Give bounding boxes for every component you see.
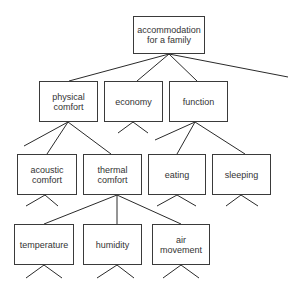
node-temperature: temperature	[14, 224, 74, 265]
edge-temperature-stub-right	[44, 265, 62, 278]
edge-sleeping-stub-left	[226, 195, 241, 206]
edge-air-stub-left	[163, 265, 181, 278]
edge-root-stub-left	[69, 54, 169, 81]
edge-thermal-temperature	[44, 195, 117, 224]
edge-physical-thermal	[68, 122, 111, 154]
edge-sleeping-stub-right	[241, 195, 258, 206]
node-thermal-comfort: thermal comfort	[83, 154, 142, 195]
node-economy: economy	[104, 81, 163, 122]
node-accommodation-for-a-family: accommodation for a family	[133, 16, 205, 54]
edge-acoustic-stub-right	[45, 195, 58, 206]
edge-economy-stub-left	[118, 122, 133, 133]
edge-air-stub-right	[181, 265, 199, 278]
node-eating: eating	[148, 154, 206, 195]
edge-physical-acoustic	[47, 122, 68, 154]
node-air-movement: air movement	[152, 224, 210, 265]
edge-root-function	[169, 54, 197, 81]
node-physical-comfort: physical comfort	[39, 81, 98, 122]
edge-physical-stub	[24, 122, 68, 146]
edge-thermal-air	[117, 195, 181, 224]
edge-function-sleeping	[195, 122, 245, 154]
edge-humidity-stub-right	[117, 265, 134, 278]
edge-function-stub	[155, 122, 195, 140]
edge-root-stub-right	[169, 54, 288, 77]
node-humidity: humidity	[83, 224, 142, 265]
edge-function-eating	[177, 122, 195, 154]
edge-temperature-stub-left	[26, 265, 44, 278]
node-sleeping: sleeping	[212, 154, 271, 195]
edge-acoustic-stub-left	[26, 195, 45, 206]
edge-humidity-stub-left	[97, 265, 117, 278]
edge-economy-stub-right	[133, 122, 148, 133]
edge-eating-stub-left	[157, 195, 177, 206]
edge-eating-stub-right	[177, 195, 196, 206]
node-function: function	[169, 81, 228, 122]
node-acoustic-comfort: acoustic comfort	[17, 154, 77, 195]
